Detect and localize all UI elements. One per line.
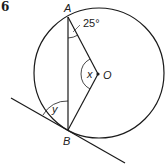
label-o: O [103,69,112,81]
geometry-diagram: 6 A 25° x O y B [0,0,168,165]
angle-a-label: 25° [83,17,100,29]
question-number: 6 [1,0,9,14]
angle-x-label: x [86,68,93,80]
label-b: B [63,135,70,147]
label-a: A [63,2,71,14]
angle-y-label: y [51,103,59,115]
center-point [96,72,99,75]
angle-arc-a [68,35,78,38]
